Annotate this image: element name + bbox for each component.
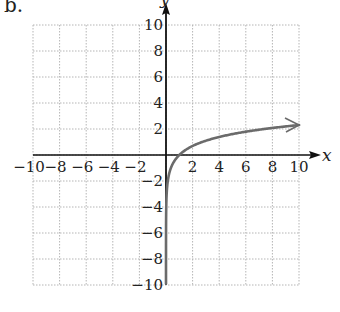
x-tick-label: −8 <box>45 158 67 176</box>
y-axis-label: y <box>159 0 170 8</box>
x-tick-label: 10 <box>289 158 308 176</box>
x-tick-label: 4 <box>214 158 224 176</box>
y-tick-label: −6 <box>141 224 163 242</box>
x-tick-label: 8 <box>268 158 278 176</box>
y-tick-label: −4 <box>141 198 163 216</box>
y-tick-label: −10 <box>131 276 163 294</box>
x-axis-label: x <box>322 145 332 165</box>
y-tick-label: 6 <box>153 68 163 86</box>
axes <box>33 3 321 285</box>
x-tick-label: −6 <box>71 158 93 176</box>
y-tick-label: 4 <box>153 94 163 112</box>
graph-plot: b. −10−8−6−4−2246810−10−8−6−4−2246810 x … <box>0 0 340 312</box>
panel-label: b. <box>4 0 23 17</box>
x-tick-label: 2 <box>188 158 198 176</box>
y-tick-label: 10 <box>144 16 163 34</box>
x-tick-label: 6 <box>241 158 251 176</box>
y-tick-label: 2 <box>153 120 163 138</box>
y-tick-label: 8 <box>153 42 163 60</box>
curve-ln-x <box>166 125 299 284</box>
x-tick-label: −10 <box>13 158 45 176</box>
y-tick-label: −8 <box>141 250 163 268</box>
x-tick-label: −4 <box>98 158 120 176</box>
y-tick-label: −2 <box>141 172 163 190</box>
